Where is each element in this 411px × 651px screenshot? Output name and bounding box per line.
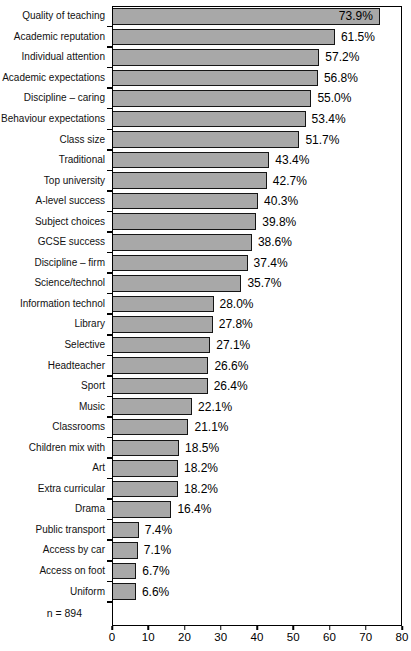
- value-label: 53.4%: [312, 112, 346, 126]
- category-label: A-level success: [0, 196, 112, 206]
- value-label: 27.8%: [219, 317, 253, 331]
- x-axis-tick-label: 60: [323, 631, 336, 643]
- chart-row: Classrooms21.1%: [0, 417, 402, 438]
- value-label: 35.7%: [247, 276, 281, 290]
- chart-row: Music22.1%: [0, 396, 402, 417]
- category-label: Subject choices: [0, 217, 112, 227]
- bar-track: 56.8%: [112, 70, 402, 87]
- value-label: 7.4%: [145, 523, 172, 537]
- chart-row: Quality of teaching73.9%: [0, 6, 402, 27]
- bar-track: 18.2%: [112, 481, 402, 498]
- bar-track: 18.5%: [112, 440, 402, 457]
- chart-row: Class size51.7%: [0, 129, 402, 150]
- value-label: 27.1%: [216, 338, 250, 352]
- bar: [112, 357, 208, 374]
- category-label: Information technol: [0, 299, 112, 309]
- chart-row: Science/technol35.7%: [0, 273, 402, 294]
- bar: [112, 111, 306, 128]
- value-label: 56.8%: [324, 71, 358, 85]
- bar-track: 26.6%: [112, 357, 402, 374]
- bar: [112, 172, 267, 189]
- x-axis-tick: [365, 626, 367, 630]
- value-label: 18.2%: [184, 461, 218, 475]
- bar: [112, 460, 178, 477]
- chart-row: Library27.8%: [0, 314, 402, 335]
- category-label: Discipline – firm: [0, 258, 112, 268]
- chart-row: Selective27.1%: [0, 335, 402, 356]
- chart-row: Individual attention57.2%: [0, 47, 402, 68]
- x-axis-tick-label: 20: [178, 631, 191, 643]
- value-label: 73.9%: [339, 9, 373, 23]
- bar-track: 43.4%: [112, 152, 402, 169]
- category-label: Class size: [0, 135, 112, 145]
- value-label: 26.4%: [214, 379, 248, 393]
- category-label: Sport: [0, 381, 112, 391]
- chart-row: Academic reputation61.5%: [0, 27, 402, 48]
- bar: [112, 316, 213, 333]
- bar-track: 6.6%: [112, 583, 402, 600]
- category-label: Traditional: [0, 155, 112, 165]
- bar: [112, 49, 319, 66]
- x-axis-tick-label: 70: [359, 631, 372, 643]
- bar-track: 53.4%: [112, 111, 402, 128]
- category-label: Selective: [0, 340, 112, 350]
- bar-track: 27.1%: [112, 337, 402, 354]
- category-label: Individual attention: [0, 52, 112, 62]
- category-label: Music: [0, 402, 112, 412]
- x-axis: 01020304050607080: [112, 626, 402, 650]
- bar: [112, 152, 269, 169]
- x-axis-tick-label: 40: [251, 631, 264, 643]
- value-label: 28.0%: [220, 297, 254, 311]
- bar: [112, 70, 318, 87]
- chart-row: Extra curricular18.2%: [0, 479, 402, 500]
- bar: [112, 563, 136, 580]
- category-label: Extra curricular: [0, 484, 112, 494]
- bar: [112, 255, 248, 272]
- category-label: Academic expectations: [0, 73, 112, 83]
- bar-track: 27.8%: [112, 316, 402, 333]
- x-axis-tick: [111, 626, 113, 630]
- category-label: Science/technol: [0, 278, 112, 288]
- chart-row: Access on foot6.7%: [0, 561, 402, 582]
- category-label: Public transport: [0, 525, 112, 535]
- category-label: Classrooms: [0, 422, 112, 432]
- bar: [112, 481, 178, 498]
- value-label: 21.1%: [194, 420, 228, 434]
- category-label: Drama: [0, 504, 112, 514]
- x-axis-tick-label: 0: [109, 631, 115, 643]
- bar-track: 7.4%: [112, 522, 402, 539]
- bar-track: 21.1%: [112, 419, 402, 436]
- value-label: 22.1%: [198, 400, 232, 414]
- bar-track: 38.6%: [112, 234, 402, 251]
- x-axis-tick: [329, 626, 331, 630]
- category-label: Art: [0, 463, 112, 473]
- bar-track: 22.1%: [112, 398, 402, 415]
- chart-row: Sport26.4%: [0, 376, 402, 397]
- bar: [112, 131, 299, 148]
- bar-track: 61.5%: [112, 29, 402, 46]
- bar: [112, 522, 139, 539]
- value-label: 6.6%: [142, 585, 169, 599]
- bar: [112, 440, 179, 457]
- bar-track: 40.3%: [112, 193, 402, 210]
- chart-row: A-level success40.3%: [0, 191, 402, 212]
- bar: [112, 296, 214, 313]
- bar-track: 55.0%: [112, 90, 402, 107]
- category-label: Academic reputation: [0, 32, 112, 42]
- category-label: Library: [0, 319, 112, 329]
- value-label: 57.2%: [325, 50, 359, 64]
- chart-row: Information technol28.0%: [0, 294, 402, 315]
- category-label: Uniform: [0, 587, 112, 597]
- value-label: 37.4%: [254, 256, 288, 270]
- value-label: 26.6%: [214, 359, 248, 373]
- bar: [112, 90, 311, 107]
- x-axis-tick: [401, 626, 403, 630]
- value-label: 43.4%: [275, 153, 309, 167]
- bars-area: Quality of teaching73.9%Academic reputat…: [0, 6, 402, 602]
- value-label: 42.7%: [273, 174, 307, 188]
- value-label: 55.0%: [317, 91, 351, 105]
- category-label: Discipline – caring: [0, 93, 112, 103]
- chart-row: GCSE success38.6%: [0, 232, 402, 253]
- category-label: Top university: [0, 176, 112, 186]
- chart-row: Drama16.4%: [0, 499, 402, 520]
